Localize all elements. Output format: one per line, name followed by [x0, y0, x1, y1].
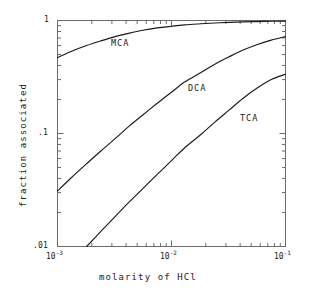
- x-tick-mantissa-right: 10: [274, 252, 284, 261]
- series-label-tca: TCA: [240, 113, 258, 123]
- series-label-mca: MCA: [111, 38, 129, 48]
- x-axis-title: molarity of HCl: [99, 272, 197, 282]
- x-tick-exponent-mid: -2: [170, 249, 177, 256]
- x-axis-tick-label-1e-1: 10-1: [274, 250, 291, 261]
- y-axis-tick-label-point01: .01: [33, 242, 48, 250]
- y-axis-tick-label-1: 1: [44, 16, 49, 24]
- y-axis-title: fraction associated: [18, 79, 28, 211]
- x-axis-tick-label-1e-2: 10-2: [160, 250, 177, 261]
- y-axis-tick-label-point1: .1: [38, 129, 48, 137]
- x-axis-tick-label-1e-3: 10-3: [46, 250, 63, 261]
- chart-figure: 1 .1 .01 10-3 10-2 10-1 molarity of HCl …: [0, 0, 311, 292]
- series-label-dca: DCA: [188, 83, 206, 93]
- x-tick-exponent-right: -1: [284, 249, 291, 256]
- x-tick-mantissa-left: 10: [46, 252, 56, 261]
- x-tick-mantissa-mid: 10: [160, 252, 170, 261]
- x-tick-exponent-left: -3: [56, 249, 63, 256]
